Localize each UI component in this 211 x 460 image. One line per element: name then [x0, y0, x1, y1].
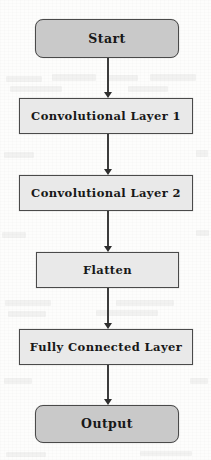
scan-artifact: [116, 300, 174, 306]
arrow-shaft: [107, 58, 109, 93]
scan-artifact: [150, 74, 196, 81]
arrow-shaft: [107, 211, 109, 247]
flow-arrow: [107, 58, 109, 98]
flowchart-node-output[interactable]: Output: [35, 405, 179, 443]
scan-artifact: [2, 232, 26, 238]
scan-artifact: [6, 76, 42, 82]
node-label: Fully Connected Layer: [30, 341, 182, 354]
flow-arrow: [107, 288, 109, 329]
scan-artifact: [128, 86, 168, 92]
flow-arrow: [107, 211, 109, 252]
node-label: Output: [81, 417, 133, 431]
scan-artifact: [4, 152, 34, 158]
paper-texture-overlay: [0, 0, 211, 460]
flowchart-node-flatten[interactable]: Flatten: [36, 252, 179, 288]
scan-artifact: [196, 230, 209, 236]
scan-artifact: [140, 451, 192, 456]
node-label: Start: [88, 32, 125, 46]
scan-artifact: [52, 74, 96, 81]
arrow-shaft: [107, 288, 109, 324]
scan-artifact: [6, 452, 46, 457]
flow-arrow: [107, 365, 109, 405]
scan-artifact: [10, 86, 62, 92]
node-label: Convolutional Layer 2: [31, 187, 181, 200]
flowchart-node-start[interactable]: Start: [35, 19, 179, 58]
node-label: Convolutional Layer 1: [31, 110, 181, 123]
scan-artifact: [196, 150, 208, 157]
flowchart-canvas: StartConvolutional Layer 1Convolutional …: [0, 0, 211, 460]
flowchart-node-conv2[interactable]: Convolutional Layer 2: [19, 175, 193, 211]
flow-arrow: [107, 134, 109, 175]
arrow-shaft: [107, 134, 109, 170]
scan-artifact: [4, 378, 32, 384]
arrow-shaft: [107, 365, 109, 400]
scan-artifact: [190, 378, 208, 384]
flowchart-node-conv1[interactable]: Convolutional Layer 1: [19, 98, 193, 134]
scan-artifact: [96, 310, 158, 316]
scan-artifact: [108, 75, 138, 81]
scan-artifact: [8, 311, 46, 317]
node-label: Flatten: [83, 264, 132, 277]
scan-artifact: [5, 300, 51, 306]
flowchart-node-fc[interactable]: Fully Connected Layer: [19, 329, 193, 365]
